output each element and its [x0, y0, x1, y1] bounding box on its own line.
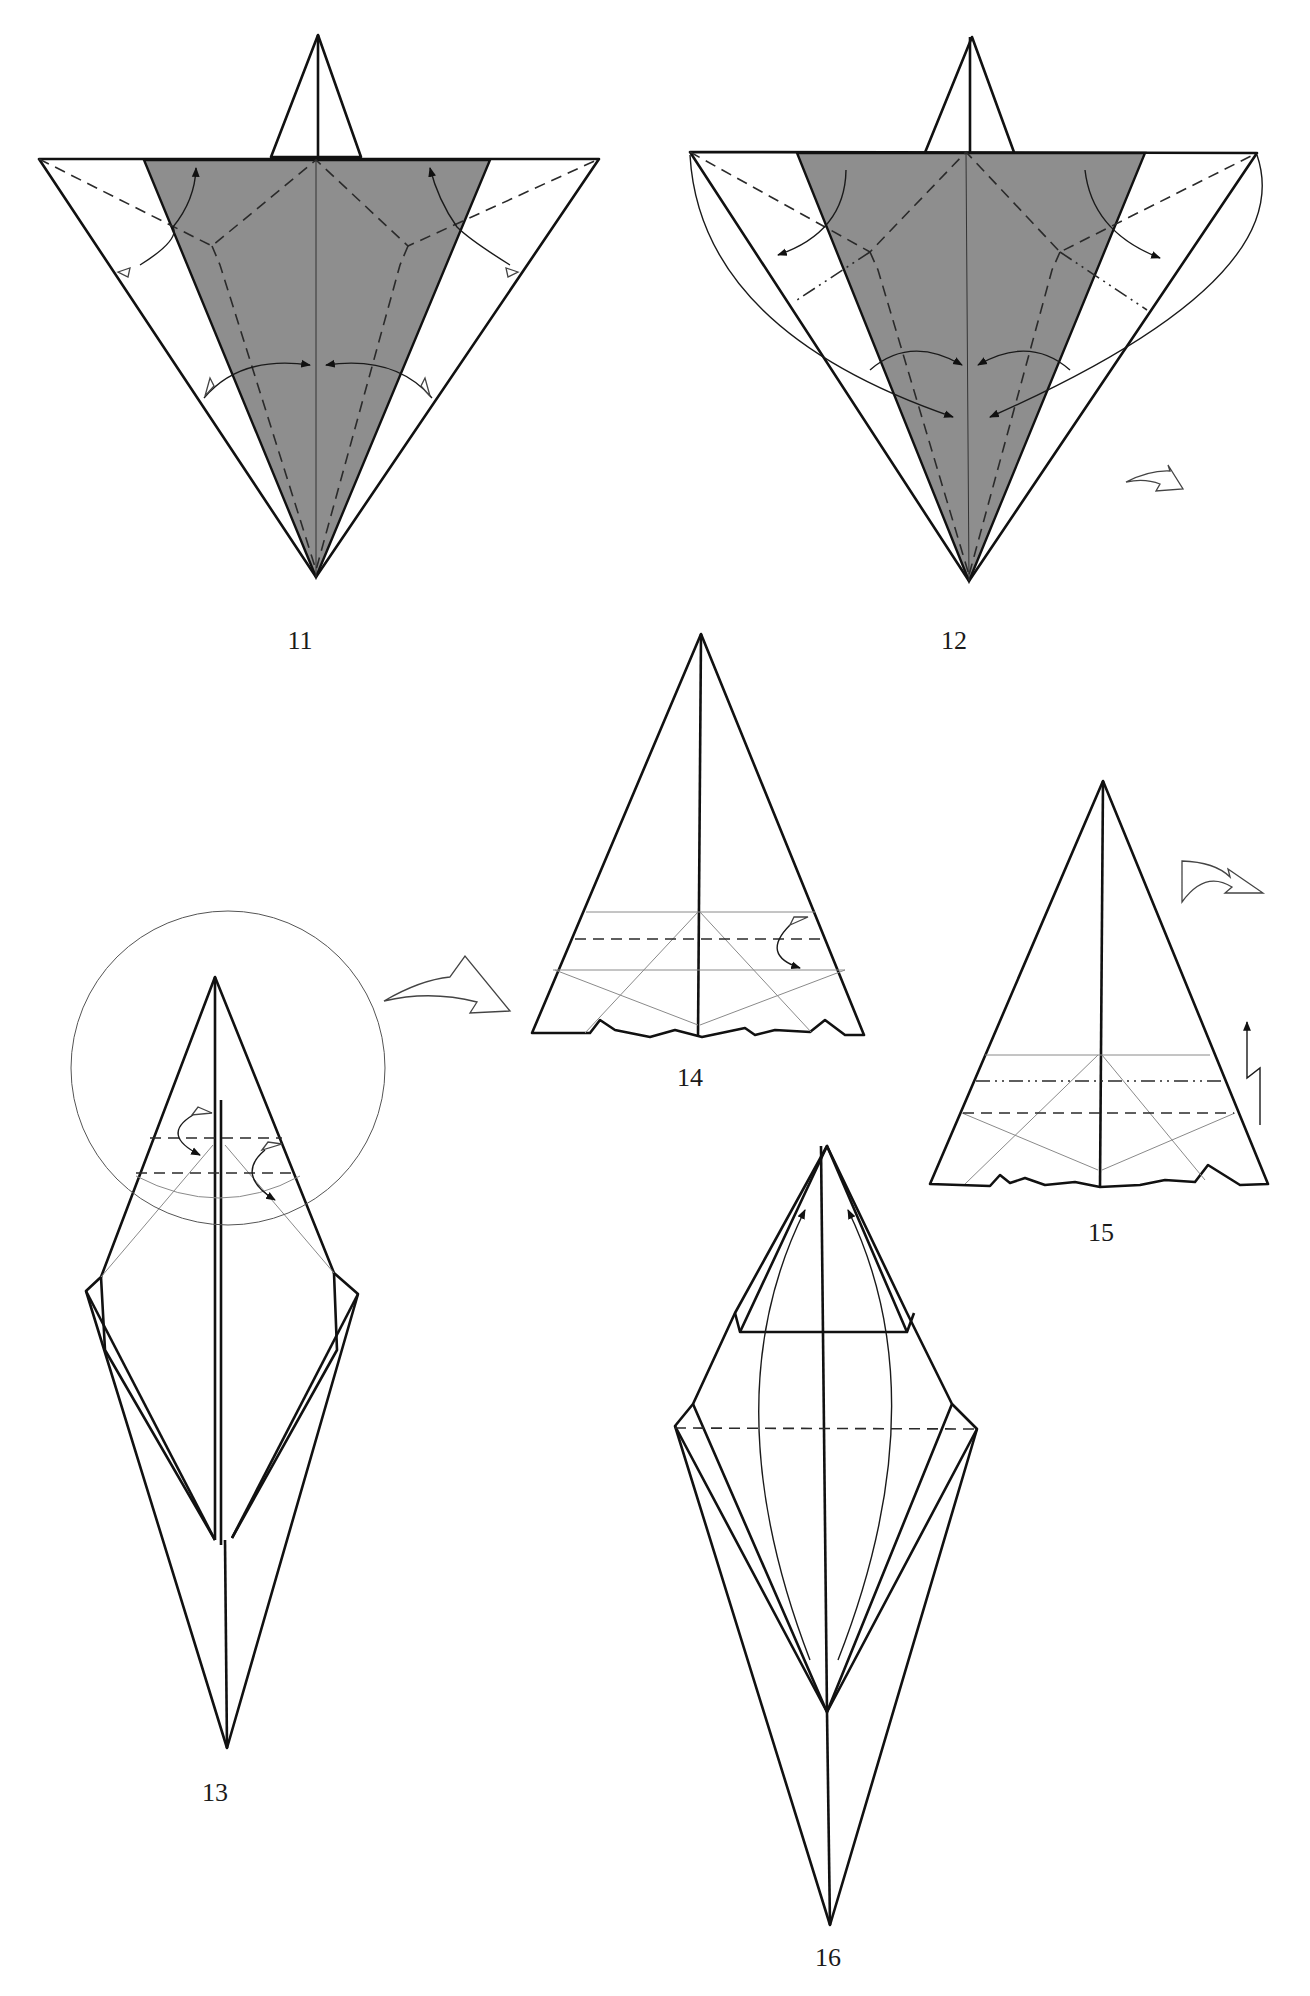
turn-over-arrow-icon	[1126, 465, 1183, 491]
pleat-arrow-icon	[1247, 1022, 1260, 1125]
zoom-arrow-icon	[384, 956, 510, 1013]
diagram-canvas	[0, 0, 1310, 1996]
step-15-model	[930, 781, 1268, 1187]
turn-over-arrow-icon	[1182, 861, 1263, 902]
step-13-model	[71, 911, 385, 1748]
step-11-label: 11	[287, 628, 312, 654]
step-16-label: 16	[815, 1945, 841, 1971]
step-14-label: 14	[677, 1065, 703, 1091]
step-16-model	[675, 1146, 977, 1925]
zoom-circle	[71, 911, 385, 1225]
step-14-model	[532, 634, 864, 1037]
step-15-label: 15	[1088, 1220, 1114, 1246]
step-12-label: 12	[941, 628, 967, 654]
step-12-model	[690, 37, 1262, 581]
step-13-label: 13	[202, 1780, 228, 1806]
step-11-model	[39, 35, 599, 577]
